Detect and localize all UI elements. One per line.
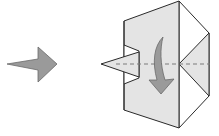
step-transition-arrow-icon: [7, 47, 57, 82]
origami-diagram: [0, 0, 219, 136]
